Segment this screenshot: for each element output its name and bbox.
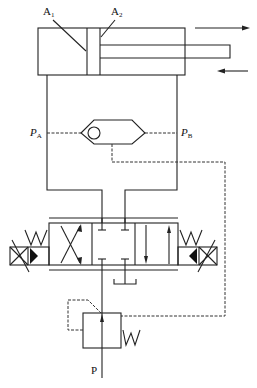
label-pa: PA xyxy=(30,127,42,140)
label-pb: PB xyxy=(181,127,192,140)
hydraulic-diagram: A1 A2 PA PB P xyxy=(0,0,257,388)
left-solenoid xyxy=(10,230,49,272)
a1-leader xyxy=(53,20,86,51)
right-solenoid xyxy=(178,230,217,272)
motion-arrows xyxy=(195,26,250,74)
shuttle-valve xyxy=(47,120,177,144)
label-a2: A2 xyxy=(111,6,122,19)
pressure-reducing-valve xyxy=(68,300,140,348)
label-p: P xyxy=(91,365,97,376)
directional-valve xyxy=(49,218,178,270)
label-a1: A1 xyxy=(43,6,54,19)
circuit-svg xyxy=(0,0,257,388)
